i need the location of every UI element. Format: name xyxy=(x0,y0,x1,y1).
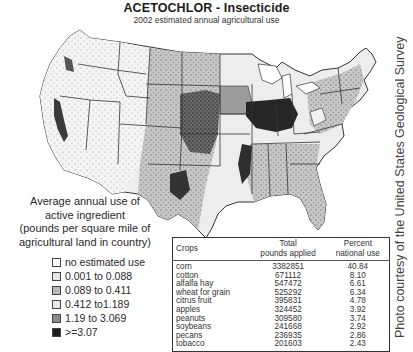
legend-item: 0.089 to 0.411 xyxy=(52,283,145,297)
legend-item: 1.19 to 3.069 xyxy=(52,311,145,325)
header-line: Total xyxy=(252,239,325,249)
legend-label: no estimated use xyxy=(65,256,145,268)
photo-credit: Photo courtesy of the United States Geol… xyxy=(393,8,407,338)
legend-label: 0.089 to 0.411 xyxy=(65,284,131,296)
pounds-applied: 3382851 xyxy=(250,261,327,272)
percent-national-use: 2.43 xyxy=(327,340,390,351)
pounds-applied: 201603 xyxy=(250,340,327,351)
legend-title-line: Average annual use of xyxy=(0,195,170,209)
crop-name: corn xyxy=(173,261,250,272)
legend-item: >=3.07 xyxy=(52,325,145,339)
legend-label: >=3.07 xyxy=(65,326,98,338)
crop-usage-table: Crops Total pounds applied Percent natio… xyxy=(172,237,390,352)
header-line: pounds applied xyxy=(252,249,325,259)
legend-swatch xyxy=(52,258,61,267)
table-header-row: Crops Total pounds applied Percent natio… xyxy=(173,238,390,261)
legend-swatch xyxy=(52,300,61,309)
legend-label: 0.412 to1.189 xyxy=(65,298,129,310)
header-line: national use xyxy=(329,249,387,259)
map-title: ACETOCHLOR - Insecticide xyxy=(0,1,413,15)
legend-item: 0.412 to1.189 xyxy=(52,297,145,311)
legend-title-line: active ingredient xyxy=(0,209,170,223)
legend-swatch xyxy=(52,328,61,337)
crop-name: tobacco xyxy=(173,340,250,351)
legend-item: 0.001 to 0.088 xyxy=(52,269,145,283)
column-header-total-pounds: Total pounds applied xyxy=(250,238,327,261)
legend-swatch xyxy=(52,314,61,323)
legend-title: Average annual use of active ingredient … xyxy=(0,195,170,249)
legend-label: 1.19 to 3.069 xyxy=(65,312,126,324)
legend-title-line: (pounds per square mile of xyxy=(0,222,170,236)
legend-label: 0.001 to 0.088 xyxy=(65,270,132,282)
legend-title-line: agricultural land in country) xyxy=(0,236,170,250)
legend-item: no estimated use xyxy=(52,255,145,269)
header-line: Percent xyxy=(329,239,387,249)
column-header-percent: Percent national use xyxy=(327,238,390,261)
column-header-crops: Crops xyxy=(173,238,250,261)
table-row: corn338285140.84 xyxy=(173,261,390,272)
legend: no estimated use 0.001 to 0.088 0.089 to… xyxy=(52,255,145,339)
table-row: tobacco2016032.43 xyxy=(173,340,390,351)
legend-swatch xyxy=(52,272,61,281)
legend-swatch xyxy=(52,286,61,295)
percent-national-use: 40.84 xyxy=(327,261,390,272)
